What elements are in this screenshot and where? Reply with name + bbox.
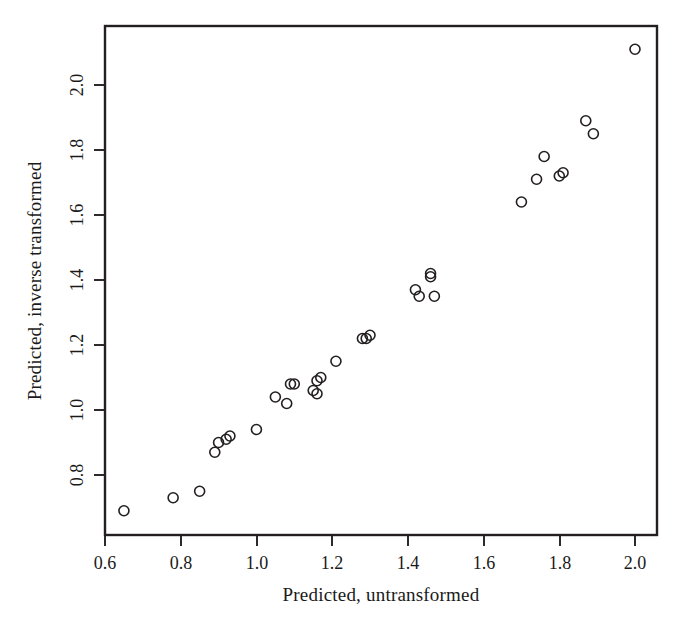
data-point [516, 197, 526, 207]
data-point [282, 399, 292, 409]
y-axis-tick-labels: 0.8 1.0 1.2 1.4 1.6 1.8 2.0 [67, 74, 87, 487]
plot-canvas: 0.6 0.8 1.0 1.2 1.4 1.6 1.8 2.0 0.8 1.0 … [0, 0, 692, 625]
data-point [168, 493, 178, 503]
data-point [539, 152, 549, 162]
x-tick-label-5: 1.6 [473, 553, 496, 573]
data-point [581, 116, 591, 126]
y-tick-label-2: 1.2 [67, 334, 87, 357]
data-point [210, 447, 220, 457]
y-axis-title: Predicted, inverse transformed [24, 161, 45, 400]
x-axis-ticks [105, 535, 635, 546]
x-axis-tick-labels: 0.6 0.8 1.0 1.2 1.4 1.6 1.8 2.0 [94, 553, 647, 573]
x-tick-label-2: 1.0 [246, 553, 269, 573]
x-tick-label-1: 0.8 [170, 553, 193, 573]
y-tick-label-1: 1.0 [67, 399, 87, 422]
data-point [251, 425, 261, 435]
data-points-layer [119, 44, 640, 516]
data-point [588, 129, 598, 139]
data-point [270, 392, 280, 402]
data-point [429, 291, 439, 301]
plot-frame [105, 26, 657, 535]
x-tick-label-7: 2.0 [624, 553, 647, 573]
data-point [331, 356, 341, 366]
y-tick-label-6: 2.0 [67, 74, 87, 97]
data-point [119, 506, 129, 516]
y-tick-label-3: 1.4 [67, 269, 87, 292]
y-tick-label-5: 1.8 [67, 139, 87, 162]
x-tick-label-6: 1.8 [549, 553, 572, 573]
x-axis-title: Predicted, untransformed [283, 584, 480, 605]
data-point [195, 486, 205, 496]
x-tick-label-0: 0.6 [94, 553, 117, 573]
scatter-plot-figure: 0.6 0.8 1.0 1.2 1.4 1.6 1.8 2.0 0.8 1.0 … [0, 0, 692, 625]
y-tick-label-0: 0.8 [67, 464, 87, 487]
y-axis-ticks [94, 85, 105, 475]
y-tick-label-4: 1.6 [67, 204, 87, 227]
x-tick-label-4: 1.4 [397, 553, 420, 573]
data-point [532, 174, 542, 184]
x-tick-label-3: 1.2 [321, 553, 344, 573]
data-point [630, 44, 640, 54]
